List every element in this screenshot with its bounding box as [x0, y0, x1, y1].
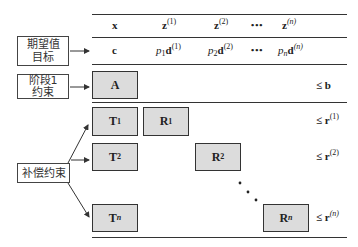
- connector-arrows: [0, 0, 358, 247]
